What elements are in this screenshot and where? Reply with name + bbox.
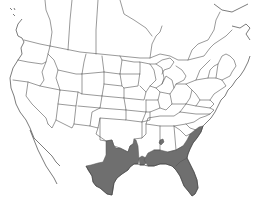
range-map xyxy=(0,0,255,206)
coastline xyxy=(10,4,250,196)
range-shading xyxy=(86,126,203,196)
state-province-borders xyxy=(13,0,236,166)
